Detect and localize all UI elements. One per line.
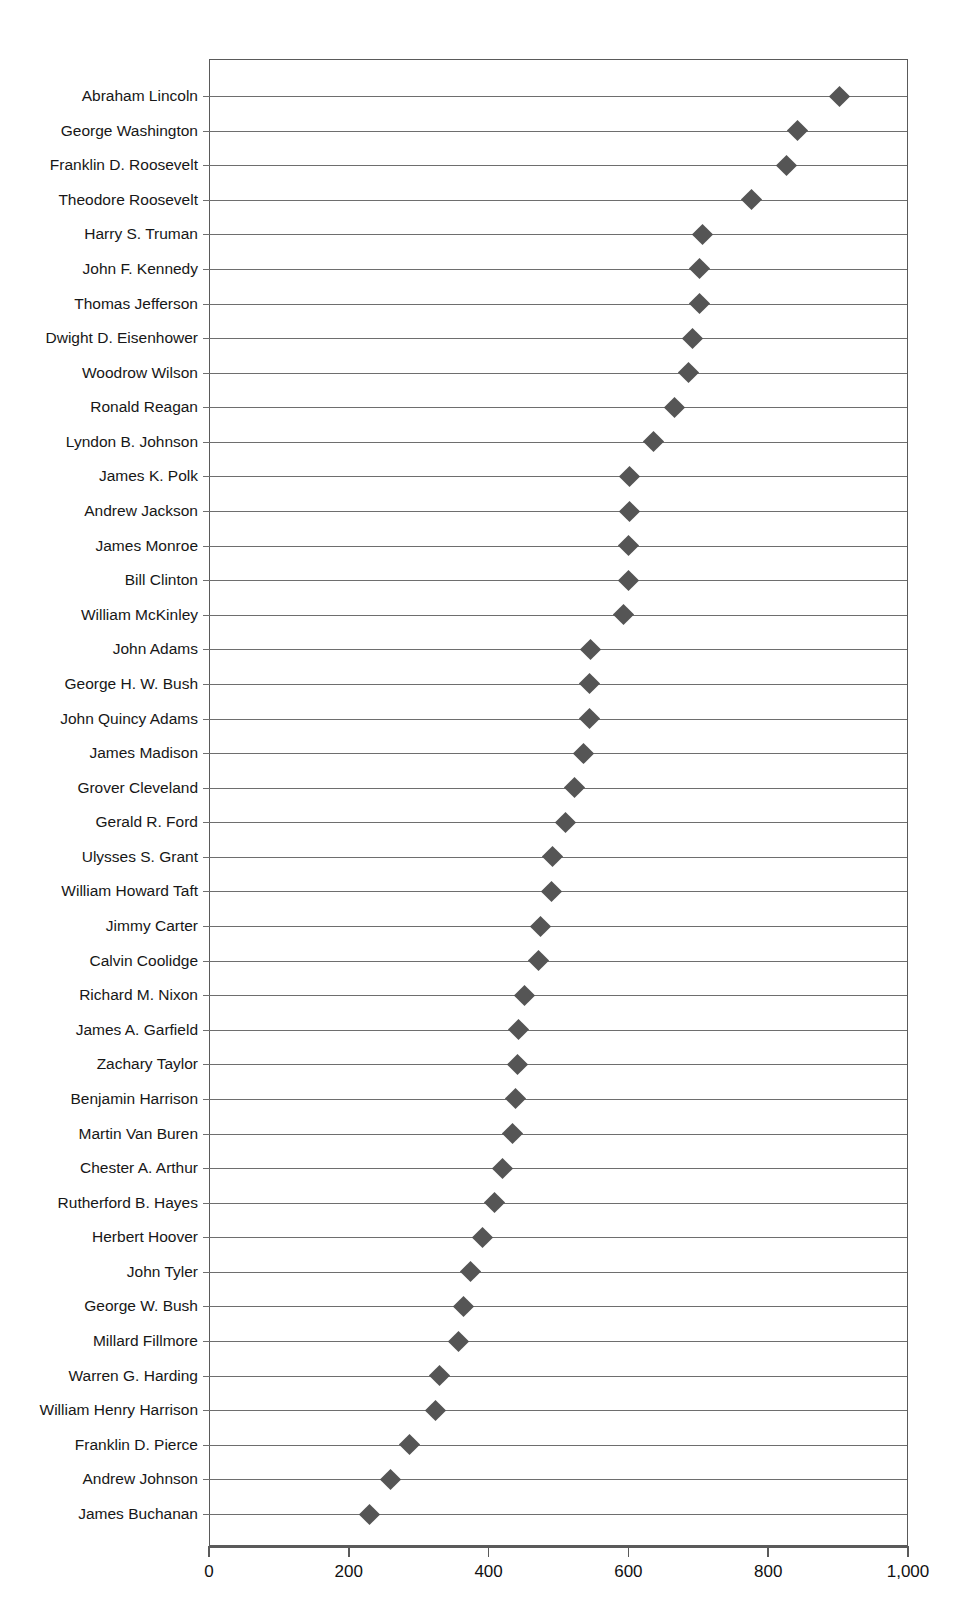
- y-axis-tick: [203, 1030, 210, 1031]
- data-point-marker[interactable]: [619, 466, 640, 487]
- data-point-marker[interactable]: [741, 189, 762, 210]
- data-point-marker[interactable]: [564, 777, 585, 798]
- row-guide-line: [210, 719, 907, 720]
- data-point-marker[interactable]: [580, 639, 601, 660]
- y-axis-tick: [203, 1376, 210, 1377]
- category-label: William Howard Taft: [61, 880, 198, 902]
- y-axis-tick: [203, 719, 210, 720]
- row-guide-line: [210, 580, 907, 581]
- data-point-marker[interactable]: [507, 1054, 528, 1075]
- data-point-marker[interactable]: [514, 985, 535, 1006]
- data-point-marker[interactable]: [492, 1158, 513, 1179]
- row-guide-line: [210, 1376, 907, 1377]
- data-point-marker[interactable]: [359, 1503, 380, 1524]
- data-point-marker[interactable]: [678, 362, 699, 383]
- data-point-marker[interactable]: [573, 743, 594, 764]
- category-label: Harry S. Truman: [84, 223, 198, 245]
- data-point-marker[interactable]: [617, 570, 638, 591]
- category-label: Martin Van Buren: [79, 1123, 198, 1145]
- x-axis-tick-label: 600: [614, 1562, 642, 1582]
- data-point-marker[interactable]: [689, 293, 710, 314]
- row-guide-line: [210, 1410, 907, 1411]
- x-axis-tick-label: 1,000: [887, 1562, 930, 1582]
- data-point-marker[interactable]: [472, 1227, 493, 1248]
- y-axis-tick: [203, 649, 210, 650]
- data-point-marker[interactable]: [508, 1019, 529, 1040]
- row-guide-line: [210, 373, 907, 374]
- data-point-marker[interactable]: [542, 846, 563, 867]
- category-label: Gerald R. Ford: [95, 811, 198, 833]
- y-axis-tick: [203, 1203, 210, 1204]
- y-axis-tick: [203, 269, 210, 270]
- category-label: Herbert Hoover: [92, 1226, 198, 1248]
- data-point-marker[interactable]: [617, 535, 638, 556]
- category-label: Warren G. Harding: [69, 1365, 199, 1387]
- y-axis-tick: [203, 476, 210, 477]
- category-label: George Washington: [61, 120, 198, 142]
- category-label: Chester A. Arthur: [80, 1157, 198, 1179]
- y-axis-tick: [203, 1168, 210, 1169]
- y-axis-tick: [203, 165, 210, 166]
- row-guide-line: [210, 96, 907, 97]
- category-label: John Adams: [113, 638, 198, 660]
- data-point-marker[interactable]: [505, 1088, 526, 1109]
- row-guide-line: [210, 1272, 907, 1273]
- data-point-marker[interactable]: [399, 1434, 420, 1455]
- data-point-marker[interactable]: [453, 1296, 474, 1317]
- y-axis-tick: [203, 338, 210, 339]
- row-guide-line: [210, 338, 907, 339]
- category-label: Theodore Roosevelt: [58, 189, 198, 211]
- row-guide-line: [210, 995, 907, 996]
- category-label: Thomas Jefferson: [74, 293, 198, 315]
- y-axis-tick: [203, 891, 210, 892]
- row-guide-line: [210, 1168, 907, 1169]
- data-point-marker[interactable]: [787, 120, 808, 141]
- data-point-marker[interactable]: [692, 224, 713, 245]
- plot-area: Abraham LincolnGeorge WashingtonFranklin…: [209, 59, 908, 1546]
- data-point-marker[interactable]: [424, 1400, 445, 1421]
- data-point-marker[interactable]: [682, 327, 703, 348]
- category-label: George W. Bush: [84, 1295, 198, 1317]
- data-point-marker[interactable]: [828, 85, 849, 106]
- data-point-marker[interactable]: [643, 431, 664, 452]
- y-axis-tick: [203, 857, 210, 858]
- y-axis-tick: [203, 961, 210, 962]
- data-point-marker[interactable]: [613, 604, 634, 625]
- category-label: Andrew Johnson: [83, 1468, 198, 1490]
- data-point-marker[interactable]: [579, 673, 600, 694]
- category-label: Grover Cleveland: [77, 777, 198, 799]
- dot-plot-chart: Abraham LincolnGeorge WashingtonFranklin…: [0, 0, 974, 1620]
- data-point-marker[interactable]: [554, 812, 575, 833]
- row-guide-line: [210, 649, 907, 650]
- row-guide-line: [210, 1099, 907, 1100]
- data-point-marker[interactable]: [459, 1261, 480, 1282]
- category-label: James A. Garfield: [76, 1019, 198, 1041]
- category-label: William McKinley: [81, 604, 198, 626]
- data-point-marker[interactable]: [689, 258, 710, 279]
- data-point-marker[interactable]: [429, 1365, 450, 1386]
- data-point-marker[interactable]: [776, 155, 797, 176]
- data-point-marker[interactable]: [530, 915, 551, 936]
- data-point-marker[interactable]: [664, 397, 685, 418]
- y-axis-tick: [203, 1514, 210, 1515]
- row-guide-line: [210, 407, 907, 408]
- data-point-marker[interactable]: [484, 1192, 505, 1213]
- data-point-marker[interactable]: [579, 708, 600, 729]
- row-guide-line: [210, 961, 907, 962]
- data-point-marker[interactable]: [380, 1469, 401, 1490]
- y-axis-tick: [203, 1134, 210, 1135]
- data-point-marker[interactable]: [448, 1330, 469, 1351]
- y-axis-tick: [203, 822, 210, 823]
- y-axis-tick: [203, 1099, 210, 1100]
- y-axis-tick: [203, 1445, 210, 1446]
- category-label: Dwight D. Eisenhower: [46, 327, 198, 349]
- data-point-marker[interactable]: [528, 950, 549, 971]
- data-point-marker[interactable]: [619, 500, 640, 521]
- data-point-marker[interactable]: [502, 1123, 523, 1144]
- y-axis-tick: [203, 580, 210, 581]
- data-point-marker[interactable]: [541, 881, 562, 902]
- row-guide-line: [210, 1341, 907, 1342]
- x-axis: 02004006008001,000: [209, 1546, 908, 1547]
- y-axis-tick: [203, 131, 210, 132]
- row-guide-line: [210, 234, 907, 235]
